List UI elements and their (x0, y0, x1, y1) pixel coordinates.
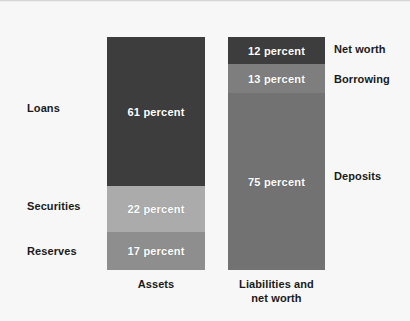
segment-net-worth: 12 percent (228, 37, 325, 64)
side-label-deposits: Deposits (334, 170, 381, 182)
axis-caption-liabilities-and-net-worth: Liabilities and net worth (218, 277, 335, 305)
stacked-bar-chart: 61 percent 22 percent 17 percent 12 perc… (0, 0, 410, 321)
side-label-net-worth: Net worth (334, 43, 386, 55)
segment-net-worth-value: 12 percent (248, 45, 305, 57)
bar-assets: 61 percent 22 percent 17 percent (107, 37, 205, 270)
axis-caption-liabilities-line2: net worth (218, 291, 335, 305)
segment-securities: 22 percent (107, 186, 205, 232)
axis-caption-assets: Assets (107, 277, 205, 291)
side-label-securities: Securities (27, 200, 81, 212)
segment-borrowing-value: 13 percent (248, 73, 305, 85)
segment-deposits: 75 percent (228, 93, 325, 270)
segment-loans-value: 61 percent (127, 106, 184, 118)
axis-caption-liabilities-line1: Liabilities and (239, 278, 314, 290)
segment-loans: 61 percent (107, 37, 205, 186)
side-label-loans: Loans (27, 102, 60, 114)
segment-securities-value: 22 percent (127, 203, 184, 215)
top-rule-divider (0, 0, 410, 2)
segment-reserves: 17 percent (107, 232, 205, 270)
bar-liabilities-and-net-worth: 12 percent 13 percent 75 percent (228, 37, 325, 270)
segment-borrowing: 13 percent (228, 64, 325, 93)
segment-deposits-value: 75 percent (248, 176, 305, 188)
side-label-reserves: Reserves (27, 245, 77, 257)
segment-reserves-value: 17 percent (127, 245, 184, 257)
side-label-borrowing: Borrowing (334, 73, 390, 85)
